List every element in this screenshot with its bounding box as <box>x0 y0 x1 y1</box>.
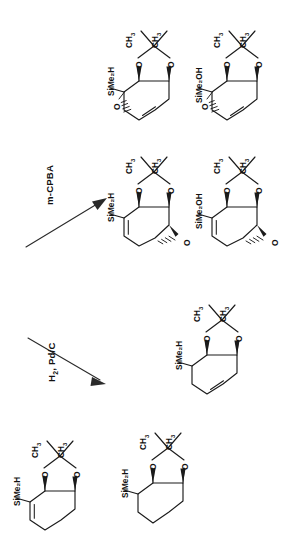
structure-mid-left <box>108 128 200 256</box>
epoxide-oxygen-atom: O <box>270 239 280 246</box>
methyl-label: CH3 <box>139 435 150 450</box>
methyl-label: CH3 <box>57 443 68 458</box>
methyl-label: CH3 <box>165 435 176 450</box>
structure-bottom-right <box>122 404 214 536</box>
oxygen-atom: O <box>222 187 232 194</box>
oxygen-atom: O <box>180 463 190 470</box>
epoxide-oxygen-atom: O <box>112 103 122 110</box>
methyl-label: CH3 <box>213 33 224 48</box>
methyl-label: CH3 <box>31 443 42 458</box>
methyl-label: CH3 <box>193 307 204 322</box>
silyl-substituent-label: SiMe₂H <box>175 341 184 370</box>
silyl-substituent-label: SiMe₂OH <box>195 67 204 103</box>
structure-mid-right <box>196 128 288 256</box>
methyl-label: CH3 <box>213 159 224 174</box>
oxygen-atom: O <box>254 61 264 68</box>
oxygen-atom: O <box>134 187 144 194</box>
methyl-label: CH3 <box>151 159 162 174</box>
reagent-label-mcpba: m-CPBA <box>44 165 55 205</box>
structure-top-right <box>196 2 288 130</box>
structure-bottom-left <box>14 412 106 540</box>
reaction-arrow-mcpba <box>22 190 112 252</box>
epoxide-oxygen-atom: O <box>200 103 210 110</box>
structure-top-left <box>108 2 200 130</box>
oxygen-atom: O <box>254 187 264 194</box>
oxygen-atom: O <box>166 61 176 68</box>
oxygen-atom: O <box>234 335 244 342</box>
methyl-label: CH3 <box>151 33 162 48</box>
silyl-substituent-label: SiMe₂H <box>121 469 130 498</box>
oxygen-atom: O <box>202 335 212 342</box>
epoxide-oxygen-atom: O <box>182 239 192 246</box>
silyl-substituent-label: SiMe₂H <box>13 477 22 506</box>
oxygen-atom: O <box>40 471 50 478</box>
reagent-label-hydrogenation: H2, Pd/C <box>46 342 59 382</box>
methyl-label: CH3 <box>125 159 136 174</box>
oxygen-atom: O <box>72 471 82 478</box>
methyl-label: CH3 <box>125 33 136 48</box>
oxygen-atom: O <box>166 187 176 194</box>
silyl-substituent-label: SiMe₂H <box>107 193 116 222</box>
silyl-substituent-label: SiMe₂H <box>107 67 116 96</box>
methyl-label: CH3 <box>239 33 250 48</box>
methyl-label: CH3 <box>239 159 250 174</box>
oxygen-atom: O <box>148 463 158 470</box>
silyl-substituent-label: SiMe₂OH <box>195 193 204 229</box>
reaction-arrow-hydrogenation <box>24 330 114 392</box>
reaction-scheme-sheet: CH3 CH3 O O SiMe₂H O CH3 CH3 O <box>0 0 294 541</box>
oxygen-atom: O <box>134 61 144 68</box>
structure-row3-right <box>176 276 268 404</box>
methyl-label: CH3 <box>219 307 230 322</box>
oxygen-atom: O <box>222 61 232 68</box>
